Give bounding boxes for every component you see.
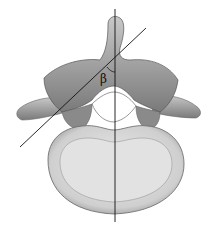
vertebral-foramen — [92, 92, 136, 122]
vertebra-illustration — [0, 0, 219, 237]
vertebra-diagram: β — [0, 0, 219, 237]
angle-beta-label: β — [100, 72, 107, 86]
